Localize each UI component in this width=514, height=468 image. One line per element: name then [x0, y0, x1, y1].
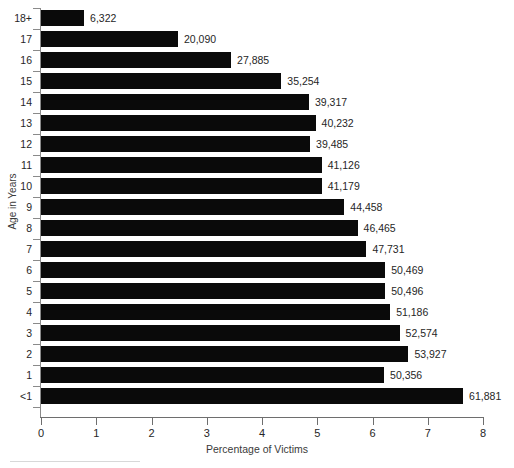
- y-axis-tick: [33, 239, 41, 240]
- bar-row[interactable]: 20,090: [41, 29, 483, 50]
- y-axis-tick: [33, 71, 41, 72]
- bar[interactable]: [41, 325, 400, 341]
- y-tick-label-6: 6: [0, 263, 32, 277]
- y-tick-label-1: <1: [0, 389, 32, 403]
- bar-value-label: 44,458: [350, 200, 382, 214]
- y-axis-tick: [33, 218, 41, 219]
- bar[interactable]: [41, 178, 322, 194]
- bar[interactable]: [41, 73, 281, 89]
- bar[interactable]: [41, 52, 231, 68]
- bar[interactable]: [41, 346, 408, 362]
- y-tick-label-7: 7: [0, 242, 32, 256]
- x-tick-label-2: 2: [140, 426, 164, 441]
- bar-value-label: 39,485: [316, 137, 348, 151]
- bar[interactable]: [41, 136, 310, 152]
- x-axis-tick: [41, 418, 42, 425]
- y-tick-label-13: 13: [0, 116, 32, 130]
- bar[interactable]: [41, 115, 316, 131]
- y-tick-label-9: 9: [0, 200, 32, 214]
- bar-row[interactable]: 35,254: [41, 71, 483, 92]
- y-axis-tick: [33, 281, 41, 282]
- y-axis-tick: [33, 50, 41, 51]
- bar-row[interactable]: 41,179: [41, 176, 483, 197]
- bar[interactable]: [41, 199, 344, 215]
- bar-value-label: 51,186: [396, 305, 428, 319]
- bar-row[interactable]: 41,126: [41, 155, 483, 176]
- x-axis-tick: [96, 418, 97, 425]
- x-tick-label-4: 4: [250, 426, 274, 441]
- x-tick-label-6: 6: [361, 426, 385, 441]
- bar-chart-figure: Age in Years Percentage of Victims 6,322…: [0, 0, 514, 468]
- bar-row[interactable]: 50,469: [41, 260, 483, 281]
- y-axis-tick: [33, 8, 41, 9]
- y-axis-tick: [33, 155, 41, 156]
- y-axis-tick: [33, 197, 41, 198]
- y-axis-tick: [33, 407, 41, 408]
- bar-value-label: 35,254: [287, 74, 319, 88]
- bar-value-label: 20,090: [184, 32, 216, 46]
- bar-row[interactable]: 39,317: [41, 92, 483, 113]
- x-tick-label-5: 5: [305, 426, 329, 441]
- x-axis-tick: [428, 418, 429, 425]
- bar[interactable]: [41, 388, 463, 404]
- bar-value-label: 39,317: [315, 95, 347, 109]
- chart-title-faint: [150, 0, 510, 7]
- y-tick-label-11: 11: [0, 158, 32, 172]
- x-axis-title: Percentage of Victims: [0, 443, 514, 455]
- bar-row[interactable]: 39,485: [41, 134, 483, 155]
- bar[interactable]: [41, 262, 385, 278]
- y-axis-tick: [33, 260, 41, 261]
- y-axis-tick: [33, 113, 41, 114]
- y-axis-tick: [33, 386, 41, 387]
- bar[interactable]: [41, 304, 390, 320]
- bar-row[interactable]: 44,458: [41, 197, 483, 218]
- bar[interactable]: [41, 157, 322, 173]
- y-tick-label-18: 18+: [0, 11, 32, 25]
- y-tick-label-5: 5: [0, 284, 32, 298]
- bar-row[interactable]: 52,574: [41, 323, 483, 344]
- bar-row[interactable]: 50,356: [41, 365, 483, 386]
- y-tick-label-3: 3: [0, 326, 32, 340]
- bar-value-label: 50,356: [390, 368, 422, 382]
- bar[interactable]: [41, 31, 178, 47]
- y-axis-tick: [33, 365, 41, 366]
- bar-value-label: 53,927: [414, 347, 446, 361]
- bar-row[interactable]: 61,881: [41, 386, 483, 407]
- x-tick-label-8: 8: [471, 426, 495, 441]
- bar-row[interactable]: 46,465: [41, 218, 483, 239]
- bar-value-label: 6,322: [90, 11, 116, 25]
- bar[interactable]: [41, 94, 309, 110]
- bar-row[interactable]: 6,322: [41, 8, 483, 29]
- y-axis-tick: [33, 323, 41, 324]
- y-tick-label-12: 12: [0, 137, 32, 151]
- bar-row[interactable]: 40,232: [41, 113, 483, 134]
- y-tick-label-4: 4: [0, 305, 32, 319]
- bar-value-label: 50,496: [391, 284, 423, 298]
- bar[interactable]: [41, 241, 366, 257]
- x-axis-tick: [152, 418, 153, 425]
- y-tick-label-2: 2: [0, 347, 32, 361]
- bar[interactable]: [41, 283, 385, 299]
- x-axis-tick: [483, 418, 484, 425]
- bar-value-label: 41,126: [328, 158, 360, 172]
- footer-divider: [10, 461, 140, 462]
- y-tick-label-14: 14: [0, 95, 32, 109]
- bar-value-label: 47,731: [372, 242, 404, 256]
- bar[interactable]: [41, 220, 358, 236]
- x-tick-label-0: 0: [29, 426, 53, 441]
- bar-row[interactable]: 27,885: [41, 50, 483, 71]
- bar-row[interactable]: 53,927: [41, 344, 483, 365]
- bar-value-label: 40,232: [322, 116, 354, 130]
- bar-row[interactable]: 51,186: [41, 302, 483, 323]
- y-tick-label-16: 16: [0, 53, 32, 67]
- y-tick-label-15: 15: [0, 74, 32, 88]
- bar[interactable]: [41, 367, 384, 383]
- y-tick-label-8: 8: [0, 221, 32, 235]
- x-axis-tick: [317, 418, 318, 425]
- bar-row[interactable]: 47,731: [41, 239, 483, 260]
- bar[interactable]: [41, 10, 84, 26]
- bar-value-label: 50,469: [391, 263, 423, 277]
- bar-value-label: 41,179: [328, 179, 360, 193]
- x-axis-tick: [373, 418, 374, 425]
- bar-row[interactable]: 50,496: [41, 281, 483, 302]
